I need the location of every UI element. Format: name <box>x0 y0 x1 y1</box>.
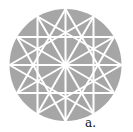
star-diagram <box>0 0 133 132</box>
figure-label: a. <box>85 116 96 130</box>
